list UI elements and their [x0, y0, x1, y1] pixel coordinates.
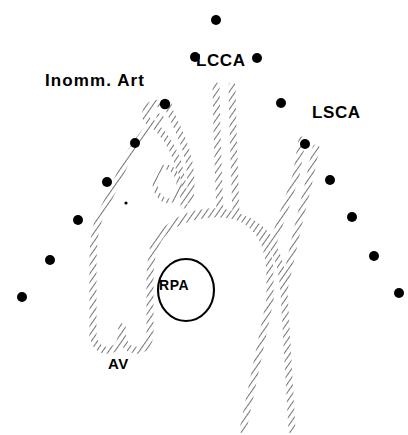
descending-aorta-inner-wall — [243, 300, 270, 430]
aortic-arch-figure: Inomm. Art LCCA LSCA RPA AV — [0, 0, 408, 435]
label-left-common-carotid-artery: LCCA — [196, 52, 246, 69]
label-left-subclavian-artery: LSCA — [312, 104, 361, 121]
lcca-left-wall — [216, 86, 220, 212]
lcca-right-wall — [232, 86, 236, 214]
fiducial-dot — [17, 292, 27, 302]
fiducial-dot — [276, 98, 286, 108]
fiducial-dot — [347, 212, 357, 222]
fiducial-dot — [160, 99, 170, 109]
fiducial-dot — [252, 53, 262, 63]
label-right-pulmonary-artery: RPA — [159, 278, 189, 292]
inner-vessel-loop — [153, 165, 181, 202]
fiducial-dot — [45, 255, 55, 265]
innominate-hook-stub — [145, 103, 162, 124]
fiducial-dot — [130, 138, 140, 148]
aortic-valve-cusp-left — [93, 327, 122, 350]
fiducial-dot — [73, 215, 83, 225]
aortic-valve-cusp-right — [122, 327, 150, 350]
fiducial-dot — [300, 139, 310, 149]
fiducial-dot — [211, 15, 221, 25]
fiducial-dot — [369, 251, 379, 261]
label-innominate-artery: Inomm. Art — [45, 72, 145, 89]
label-aortic-valve: AV — [108, 356, 129, 371]
fiducial-dot — [124, 201, 127, 204]
fiducial-dot — [394, 288, 404, 298]
fiducial-dot — [325, 175, 335, 185]
vessel-wall-group — [93, 86, 316, 430]
fiducial-dot — [102, 177, 112, 187]
ascending-aorta-outer-wall — [93, 127, 150, 336]
